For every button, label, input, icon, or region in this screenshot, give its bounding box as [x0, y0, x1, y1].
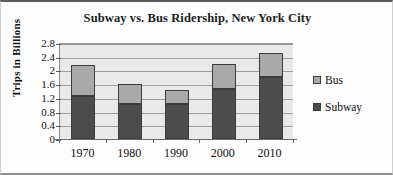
y-axis-tick-mark	[56, 99, 61, 100]
y-axis-tick-mark	[56, 58, 61, 59]
y-axis-tick-label: 0.8	[25, 106, 55, 117]
y-axis-tick-label: 1.6	[25, 79, 55, 90]
bar-group	[71, 43, 95, 139]
y-axis-tick-mark	[56, 85, 61, 86]
bar-segment-subway	[71, 96, 95, 139]
bar-group	[259, 43, 283, 139]
x-axis-tick-label: 2000	[200, 146, 246, 161]
bar-segment-subway	[165, 104, 189, 139]
y-axis-tick-mark	[56, 113, 61, 114]
y-axis-tick-label: 0	[25, 134, 55, 145]
y-axis-title: Trips in Billions	[10, 12, 22, 104]
legend-label: Bus	[325, 74, 343, 86]
bar-segment-subway	[212, 89, 236, 139]
legend-item[interactable]: Subway	[313, 101, 389, 113]
y-axis-tick-label: 2	[25, 65, 55, 76]
x-axis-tick-mark	[199, 139, 200, 143]
x-axis-tick-label: 1970	[59, 146, 105, 161]
legend-item[interactable]: Bus	[313, 74, 389, 86]
x-axis-tick-mark	[246, 139, 247, 143]
bar-group	[165, 43, 189, 139]
chart-title: Subway vs. Bus Ridership, New York City	[1, 11, 393, 26]
x-axis-line	[55, 139, 297, 140]
legend-label: Subway	[325, 101, 362, 113]
y-axis-tick-label: 2.4	[25, 51, 55, 62]
y-axis-tick-mark	[56, 44, 61, 45]
y-axis-tick-mark	[56, 126, 61, 127]
bar-group	[212, 43, 236, 139]
y-axis-tick-label: 0.4	[25, 120, 55, 131]
y-axis-tick-labels: 2.82.421.61.20.80.40	[25, 43, 55, 139]
bar-segment-bus	[212, 64, 236, 90]
y-axis-tick-label: 2.8	[25, 38, 55, 49]
bar-segment-bus	[71, 65, 95, 96]
y-axis-tick-label: 1.2	[25, 92, 55, 103]
bar-segment-bus	[259, 53, 283, 76]
legend-swatch-icon	[313, 103, 321, 111]
chart-legend: BusSubway	[313, 74, 389, 128]
x-axis-tick-label: 1980	[106, 146, 152, 161]
bar-segment-subway	[118, 104, 142, 139]
bar-segment-bus	[118, 84, 142, 104]
plot-area	[59, 43, 293, 139]
x-axis-tick-mark	[293, 139, 294, 143]
x-axis-tick-label: 2010	[247, 146, 293, 161]
x-axis-tick-label: 1990	[153, 146, 199, 161]
bar-group	[118, 43, 142, 139]
chart-figure: Subway vs. Bus Ridership, New York City …	[0, 0, 393, 175]
bar-segment-subway	[259, 77, 283, 139]
y-axis-tick-mark	[56, 71, 61, 72]
bar-segment-bus	[165, 90, 189, 104]
legend-swatch-icon	[313, 76, 321, 84]
x-axis-tick-mark	[106, 139, 107, 143]
x-axis-tick-mark	[153, 139, 154, 143]
x-axis-tick-mark	[59, 139, 60, 143]
